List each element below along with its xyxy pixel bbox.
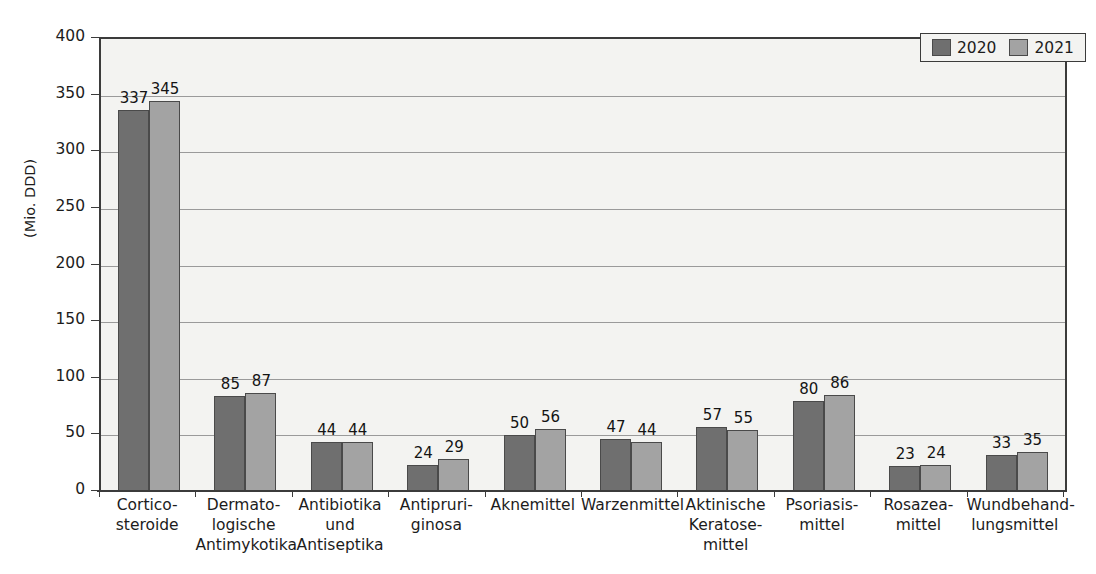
x-axis-category-label: Wundbehand- lungsmittel	[967, 496, 1063, 536]
bar-2020	[118, 110, 149, 492]
bar-2020	[889, 466, 920, 492]
y-axis-tick-label: 100	[55, 367, 85, 385]
legend-entry: 2021	[1009, 39, 1073, 57]
y-axis-tick-label: 300	[55, 140, 85, 158]
legend-color-swatch	[1009, 39, 1028, 56]
y-axis-tick-mark	[91, 320, 99, 321]
bar-2020	[504, 435, 535, 492]
x-axis-category-label: Rosazea- mittel	[870, 496, 966, 536]
bar-group: 3335	[969, 39, 1065, 492]
y-axis-tick-mark	[91, 207, 99, 208]
bar-group: 4744	[583, 39, 679, 492]
y-axis-tick-mark	[91, 377, 99, 378]
plot-area: 3373458587444424295056474457558086232433…	[99, 37, 1067, 492]
bar-value-label: 345	[145, 80, 185, 98]
legend: 20202021	[920, 33, 1086, 62]
bar-2021	[149, 101, 180, 492]
y-axis-tick-label: 50	[65, 423, 85, 441]
bar-group: 5755	[679, 39, 775, 492]
y-axis-tick-mark	[91, 94, 99, 95]
y-axis-tick-mark	[91, 264, 99, 265]
bar-2021	[824, 395, 855, 492]
bar-value-label: 44	[338, 421, 378, 439]
legend-entry: 2020	[932, 39, 996, 57]
bar-2020	[311, 442, 342, 492]
x-axis-category-label: Antipruri- ginosa	[388, 496, 484, 536]
y-axis-tick-label: 250	[55, 197, 85, 215]
bar-2020	[986, 455, 1017, 492]
legend-label: 2021	[1034, 39, 1073, 57]
y-axis-tick-label: 200	[55, 254, 85, 272]
bar-2021	[535, 429, 566, 492]
bar-2021	[342, 442, 373, 492]
bar-2021	[727, 430, 758, 492]
bar-value-label: 56	[531, 408, 571, 426]
bar-2021	[920, 465, 951, 492]
y-axis-tick-mark	[91, 37, 99, 38]
y-axis-tick-label: 0	[75, 480, 85, 498]
bar-2021	[1017, 452, 1048, 492]
y-axis-tick-mark	[91, 150, 99, 151]
bar-group: 8086	[776, 39, 872, 492]
x-axis-category-label: Antibiotika und Antiseptika	[292, 496, 388, 555]
bar-value-label: 44	[627, 421, 667, 439]
y-axis-tick-label: 400	[55, 27, 85, 45]
y-axis-tick-mark	[91, 433, 99, 434]
y-axis-title: (Mio. DDD)	[22, 159, 38, 238]
y-axis-tick-label: 150	[55, 310, 85, 328]
bar-group: 4444	[294, 39, 390, 492]
bar-group: 2429	[390, 39, 486, 492]
x-axis-category-label: Warzenmittel	[581, 496, 677, 516]
y-axis-tick-label: 350	[55, 84, 85, 102]
bar-2020	[793, 401, 824, 492]
x-axis-category-label: Psoriasis- mittel	[774, 496, 870, 536]
x-axis-category-label: Dermato- logische Antimykotika	[195, 496, 291, 555]
x-axis-category-label: Aknemittel	[485, 496, 581, 516]
bar-2020	[407, 465, 438, 492]
x-axis-category-label: Cortico- steroide	[99, 496, 195, 536]
bar-2020	[696, 427, 727, 492]
bar-value-label: 87	[241, 372, 281, 390]
bar-group: 8587	[197, 39, 293, 492]
legend-color-swatch	[932, 39, 951, 56]
legend-label: 2020	[957, 39, 996, 57]
bar-group: 337345	[101, 39, 197, 492]
bar-value-label: 29	[434, 438, 474, 456]
bar-value-label: 55	[723, 409, 763, 427]
bar-value-label: 24	[916, 444, 956, 462]
bar-chart: (Mio. DDD) 050100150200250300350400 3373…	[0, 0, 1096, 574]
bar-group: 5056	[487, 39, 583, 492]
x-axis-category-label: Aktinische Keratose- mittel	[677, 496, 773, 555]
bar-2020	[214, 396, 245, 492]
bar-value-label: 86	[820, 374, 860, 392]
bar-2021	[438, 459, 469, 492]
bar-2021	[245, 393, 276, 492]
bar-2020	[600, 439, 631, 492]
bar-value-label: 35	[1013, 431, 1053, 449]
bar-2021	[631, 442, 662, 492]
bar-group: 2324	[872, 39, 968, 492]
